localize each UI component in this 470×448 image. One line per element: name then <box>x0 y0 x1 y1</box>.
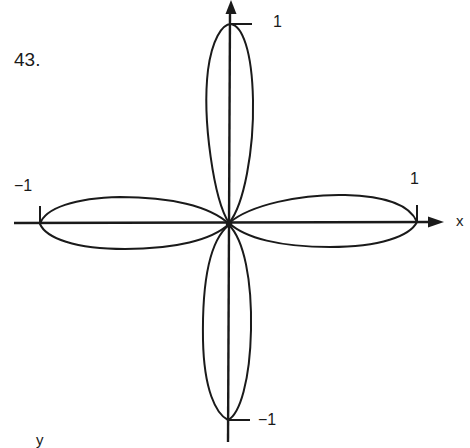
y-tick-label-top: 1 <box>273 14 282 30</box>
petal-bottom <box>203 225 251 420</box>
x-tick-label-left: −1 <box>14 178 32 194</box>
y-axis-arrow-icon <box>226 0 237 14</box>
problem-number: 43. <box>14 50 40 69</box>
x-axis <box>14 222 432 223</box>
x-axis-label: x <box>456 213 464 228</box>
y-axis-label: y <box>36 432 44 447</box>
x-axis-arrow-icon <box>428 217 444 228</box>
x-tick-label-right: 1 <box>410 171 419 187</box>
origin-point <box>226 221 232 227</box>
y-tick-label-bottom: −1 <box>258 412 276 428</box>
